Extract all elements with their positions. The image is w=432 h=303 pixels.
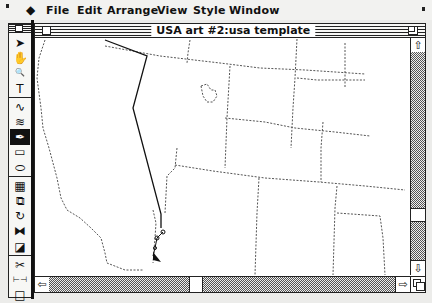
drawn-path	[105, 40, 161, 228]
palette-title-bar[interactable]	[8, 23, 32, 33]
vertical-scroll-thumb[interactable]	[411, 208, 425, 222]
grabber-hand-tool[interactable]: ✋	[10, 50, 30, 66]
menu-arrange[interactable]: Arrange	[107, 4, 158, 17]
freehand-path-tool[interactable]: ∿	[10, 99, 30, 115]
horizontal-scrollbar[interactable]: ⇦ ⇨	[35, 276, 410, 292]
menu-view[interactable]: View	[157, 4, 188, 17]
scale-tool[interactable]: ⧉	[10, 193, 30, 209]
autotrace-tool[interactable]: ≋	[10, 114, 30, 130]
shear-tool[interactable]: ◪	[10, 239, 30, 255]
measure-tool[interactable]: ⊢⊣	[10, 272, 30, 288]
scroll-down-arrow[interactable]: ⇩	[411, 260, 425, 275]
menu-bar: ◆ File Edit Arrange View Style Window	[0, 0, 432, 20]
arrow-icon: ➤	[15, 37, 25, 49]
state-border	[225, 118, 370, 136]
document-window: USA art #2:usa template	[34, 23, 426, 293]
vertical-scroll-track[interactable]	[411, 52, 425, 261]
size-box[interactable]	[410, 276, 425, 292]
apple-menu-icon[interactable]: ◆	[26, 3, 35, 17]
state-border	[337, 213, 385, 275]
tool-palette: ➤✋🔍T∿≋✒▭⬭▦⧉↻⧓◪✂⊢⊣□	[8, 23, 32, 298]
drawing-canvas[interactable]	[35, 38, 409, 275]
close-box[interactable]	[42, 26, 51, 35]
pacific-coastline	[37, 40, 143, 270]
palette-divider	[9, 176, 31, 177]
autotrace-icon: ≋	[15, 116, 25, 128]
state-border	[225, 66, 230, 168]
pen-cursor-icon	[153, 252, 161, 262]
blend-tool[interactable]: ▦	[10, 178, 30, 194]
zoom-box[interactable]	[408, 26, 418, 35]
menu-edit[interactable]: Edit	[77, 4, 102, 17]
zoom-tool[interactable]: 🔍	[10, 65, 30, 81]
menu-window[interactable]: Window	[229, 4, 280, 17]
scale-icon: ⧉	[16, 195, 25, 207]
horizontal-scroll-track[interactable]	[49, 277, 396, 292]
state-border	[321, 122, 323, 182]
state-border	[333, 186, 337, 275]
palette-divider	[9, 97, 31, 98]
scroll-left-arrow[interactable]: ⇦	[35, 277, 50, 292]
document-title-bar[interactable]: USA art #2:usa template	[35, 24, 425, 38]
document-title: USA art #2:usa template	[151, 24, 315, 37]
state-border	[255, 178, 259, 275]
palette-divider	[9, 255, 31, 256]
arrow-tool[interactable]: ➤	[10, 35, 30, 51]
page-icon: □	[14, 289, 25, 301]
scissors-icon: ✂	[15, 259, 25, 271]
pen-icon: ✒	[15, 131, 25, 143]
measure-icon: ⊢⊣	[13, 276, 27, 284]
rectangle-icon: ▭	[14, 146, 25, 158]
screen-corner-mark	[422, 7, 425, 11]
shear-icon: ◪	[14, 241, 25, 253]
state-border	[165, 148, 177, 213]
oval-icon: ⬭	[15, 162, 25, 174]
rectangle-tool[interactable]: ▭	[10, 144, 30, 160]
scissors-tool[interactable]: ✂	[10, 257, 30, 273]
pen-tool[interactable]: ✒	[10, 129, 30, 145]
horizontal-scroll-thumb[interactable]	[189, 277, 203, 292]
rotate-tool[interactable]: ↻	[10, 208, 30, 224]
text-tool[interactable]: T	[10, 81, 30, 97]
zoom-icon: 🔍	[15, 69, 25, 77]
palette-close-box[interactable]	[15, 25, 23, 32]
screen-corner-mark	[6, 4, 9, 8]
oval-tool[interactable]: ⬭	[10, 160, 30, 176]
lake-outline	[201, 84, 217, 102]
rotate-icon: ↻	[15, 210, 25, 222]
state-border	[175, 165, 405, 190]
page-tool[interactable]: □	[10, 287, 30, 303]
text-icon: T	[16, 83, 23, 95]
freehand-path-icon: ∿	[15, 101, 25, 113]
state-border	[105, 46, 365, 74]
grabber-hand-icon: ✋	[13, 52, 28, 64]
state-border	[297, 78, 365, 80]
state-border	[291, 39, 297, 148]
scroll-up-arrow[interactable]: ⇧	[411, 38, 425, 53]
usa-template-map	[35, 38, 409, 275]
blend-icon: ▦	[14, 180, 25, 192]
vertical-scrollbar[interactable]: ⇧ ⇩	[410, 38, 425, 275]
menu-file[interactable]: File	[46, 4, 69, 17]
menu-style[interactable]: Style	[193, 4, 226, 17]
scroll-right-arrow[interactable]: ⇨	[395, 277, 410, 292]
reflect-icon: ⧓	[14, 225, 26, 237]
reflect-tool[interactable]: ⧓	[10, 223, 30, 239]
